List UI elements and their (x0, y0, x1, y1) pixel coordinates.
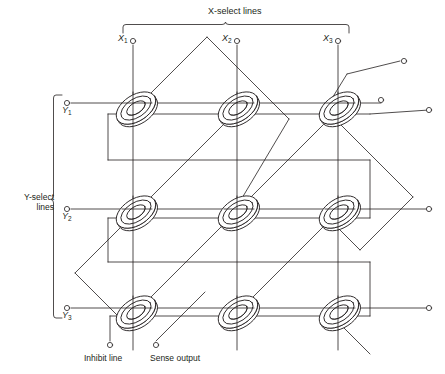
core-r3c3 (313, 289, 366, 337)
x-terminal-circles (130, 38, 340, 43)
core-row-2 (110, 189, 366, 237)
core-row-3 (110, 289, 366, 337)
inhibit-line-label: Inhibit line (84, 354, 122, 364)
x1-label: X1 (118, 33, 128, 43)
y2-label: Y2 (62, 211, 72, 221)
y-select-lines-title: Y-select lines (8, 193, 54, 213)
y1-label: Y1 (62, 105, 72, 115)
x2-label: X2 (222, 33, 232, 43)
core-row-1 (110, 85, 366, 133)
core-r3c2 (212, 289, 265, 337)
core-r3c1 (110, 289, 163, 337)
x-select-lines-title: X-select lines (208, 6, 262, 16)
right-terminal-circles (378, 58, 431, 310)
x-select-brace (123, 22, 349, 33)
core-r1c2 (212, 85, 265, 133)
core-r2c2 (212, 189, 265, 237)
sense-output-label: Sense output (150, 354, 200, 364)
y-select-lines-title-line2: lines (8, 203, 54, 213)
core-r1c1 (110, 85, 163, 133)
core-r2c1 (110, 189, 163, 237)
y3-label: Y3 (62, 310, 72, 320)
x3-label: X3 (323, 33, 333, 43)
core-memory-diagram: X-select lines Y-select lines X1 X2 X3 Y… (0, 0, 445, 374)
y-terminal-circles (64, 100, 69, 310)
